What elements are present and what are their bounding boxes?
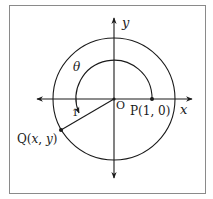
point-q-label: Q(x, y) xyxy=(17,132,57,146)
theta-label: θ xyxy=(73,60,81,74)
origin-label: O xyxy=(116,99,125,112)
point-p xyxy=(150,97,154,101)
x-axis-label: x xyxy=(180,102,188,117)
radius-label: 1 xyxy=(72,107,78,118)
unit-circle-diagram: y x θ O P(1, 0) 1 Q(x, y) xyxy=(0,0,213,199)
point-p-label: P(1, 0) xyxy=(130,104,170,118)
point-q xyxy=(59,128,63,132)
radius-segment xyxy=(61,99,114,130)
y-axis-label: y xyxy=(121,15,130,30)
